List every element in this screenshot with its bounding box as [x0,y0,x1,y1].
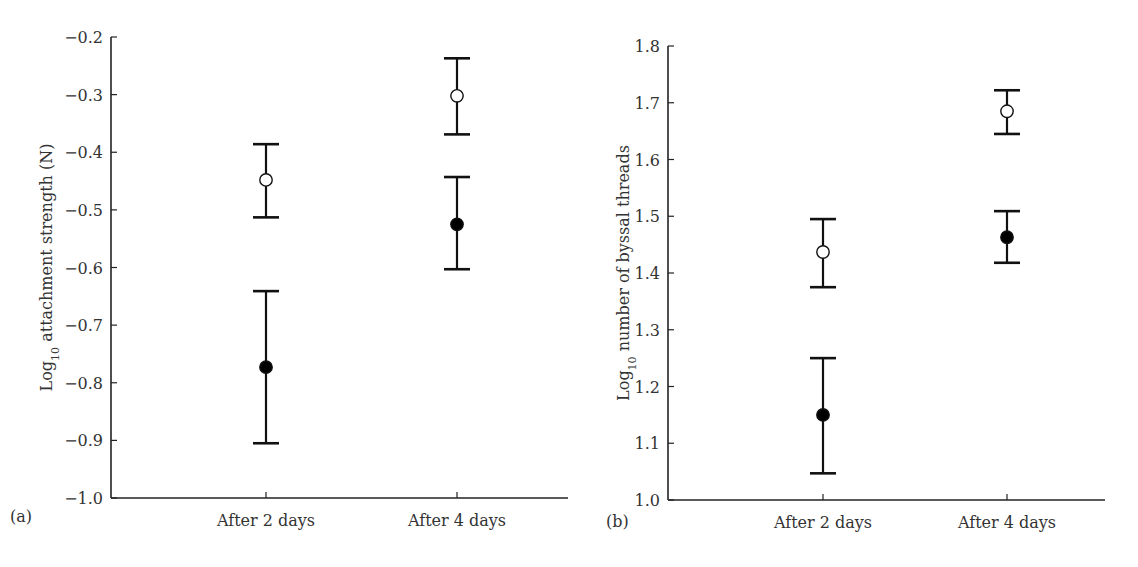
filled-circle-marker [451,218,463,230]
y-tick-label: 1.0 [635,491,660,510]
y-tick-label: 1.5 [635,207,660,226]
y-tick-label: 1.3 [635,321,660,340]
y-tick-label: −0.5 [64,201,103,220]
filled-circle-marker [1001,231,1013,243]
figure: −1.0−0.9−0.8−0.7−0.6−0.5−0.4−0.3−0.2Afte… [0,0,1138,567]
y-tick-label: −0.6 [64,259,103,278]
y-axis-label-suffix: attachment strength (N) [37,144,56,347]
y-tick-label: 1.6 [635,151,660,170]
filled-circle-marker [260,361,272,373]
panel-label: (b) [606,512,629,531]
y-tick-label: −0.8 [64,374,103,393]
y-tick-label: −0.3 [64,86,103,105]
y-axis-label-prefix: Log [37,361,56,392]
y-tick-label: 1.4 [635,264,660,283]
y-axis-label-subscript: 10 [626,356,639,370]
panel-label: (a) [10,507,32,526]
y-tick-label: −0.7 [64,316,103,335]
y-axis-label-suffix: number of byssal threads [614,145,633,356]
open-circle-marker [260,174,272,186]
x-category-label: After 2 days [773,513,872,532]
x-category-label: After 4 days [407,511,506,530]
y-axis-label-prefix: Log [614,370,633,401]
panel-b-byssal-threads: 1.01.11.21.31.41.51.61.71.8After 2 daysA… [606,37,1105,532]
y-tick-label: −0.9 [64,431,103,450]
x-category-label: After 2 days [216,511,315,530]
x-category-label: After 4 days [957,513,1056,532]
panel-a-attachment-strength: −1.0−0.9−0.8−0.7−0.6−0.5−0.4−0.3−0.2Afte… [10,28,568,530]
open-circle-marker [817,246,829,258]
y-tick-label: 1.8 [635,37,660,56]
y-axis-label-subscript: 10 [49,347,62,361]
open-circle-marker [451,90,463,102]
y-tick-label: 1.2 [635,378,660,397]
y-tick-label: −0.4 [64,143,103,162]
filled-circle-marker [817,409,829,421]
y-tick-label: 1.1 [635,434,660,453]
y-axis-label: Log10 attachment strength (N) [37,144,62,392]
open-circle-marker [1001,105,1013,117]
y-tick-label: 1.7 [635,94,660,113]
y-tick-label: −0.2 [64,28,103,47]
y-tick-label: −1.0 [64,489,103,508]
